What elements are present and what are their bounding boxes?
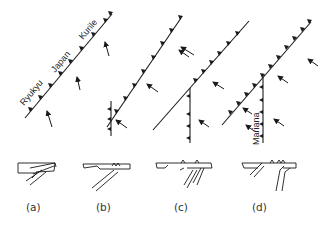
trench-line [222, 22, 311, 125]
cross-section-d [242, 160, 296, 191]
panel-b-map [107, 15, 194, 136]
arc-label-mariana: Mariana [251, 112, 261, 145]
plate-motion-arrow [308, 59, 318, 66]
panel-label-c: (c) [174, 201, 188, 213]
plate-motion-arrow [47, 111, 52, 127]
plate-motion-arrow [77, 77, 80, 90]
panel-label-a: (a) [26, 201, 41, 213]
plate-motion-arrow [147, 84, 158, 92]
plate-motion-arrow [278, 76, 288, 83]
trench-evolution-diagram: Ryukyu Japan Kurile [0, 0, 327, 230]
plate-motion-arrow [116, 120, 127, 128]
branch-teeth [107, 107, 111, 131]
panel-label-b: (b) [96, 201, 111, 213]
panel-d-map: Mariana [222, 19, 318, 145]
plate-motion-arrow [181, 47, 194, 55]
subduction-teeth [228, 19, 312, 115]
arc-label-ryukyu: Ryukyu [18, 78, 45, 107]
branch-teeth [186, 94, 190, 140]
plate-motion-arrow [274, 119, 284, 126]
plate-motion-arrow [199, 120, 209, 127]
cross-section-c [156, 160, 212, 188]
subduction-teeth [114, 15, 183, 114]
cross-section-a [18, 163, 56, 185]
panel-c-map [153, 21, 249, 143]
plate-motion-arrow [213, 82, 224, 89]
subduction-teeth [28, 11, 113, 112]
plate-motion-arrow [105, 42, 109, 56]
plate-motion-arrow [243, 108, 252, 114]
arc-label-japan: Japan [49, 49, 72, 74]
panel-a-map: Ryukyu Japan Kurile [18, 11, 113, 127]
cross-section-b [83, 163, 130, 191]
panel-label-d: (d) [252, 201, 267, 213]
arc-label-kurile: Kurile [77, 17, 99, 41]
trench-line [25, 14, 112, 118]
